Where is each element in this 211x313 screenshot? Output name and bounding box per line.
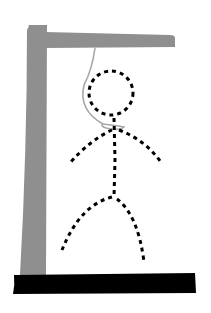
left-arm bbox=[69, 130, 112, 164]
right-leg bbox=[117, 199, 144, 262]
right-arm bbox=[119, 130, 160, 161]
hangman-canvas bbox=[0, 0, 211, 313]
gallows-beam bbox=[45, 32, 175, 48]
gallows-post bbox=[20, 25, 47, 275]
left-leg bbox=[62, 197, 112, 250]
gallows-base bbox=[13, 273, 196, 294]
head bbox=[89, 71, 133, 115]
body bbox=[114, 118, 115, 197]
hangman-drawing bbox=[0, 0, 211, 313]
